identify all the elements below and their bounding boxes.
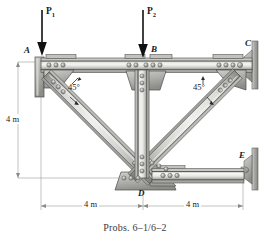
joint-label-d: D [138, 188, 145, 198]
figure-caption: Probs. 6–1/6–2 [0, 222, 270, 233]
force-label-p1: P1 [46, 6, 55, 18]
force-label-p2: P2 [147, 6, 156, 18]
angle-label-left: 45° [68, 82, 80, 92]
dimension-label-bottom-right: 4 m [184, 199, 201, 209]
dimension-label-height: 4 m [4, 114, 21, 124]
angle-label-right: 45° [193, 82, 205, 92]
joint-label-b: B [151, 44, 157, 54]
truss-diagram [0, 0, 270, 241]
figure-container: P1 P2 A B C D E 45° 45° 4 m 4 m 4 m Prob… [0, 0, 270, 241]
vertical-member-bd [135, 70, 149, 178]
joint-label-a: A [24, 45, 30, 55]
joint-label-c: C [245, 38, 251, 48]
dimension-label-bottom-left: 4 m [82, 199, 99, 209]
joint-label-e: E [239, 150, 245, 160]
